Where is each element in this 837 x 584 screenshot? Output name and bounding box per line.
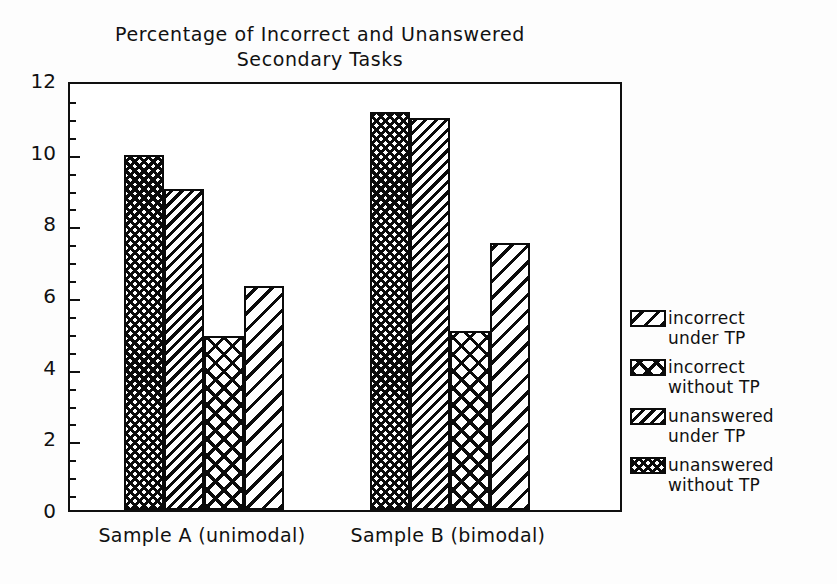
y-axis-minor-tick <box>69 209 76 211</box>
y-axis-minor-tick <box>69 496 76 498</box>
chart-figure: Percentage of Incorrect and Unanswered S… <box>0 0 837 584</box>
y-axis-minor-tick <box>69 460 76 462</box>
y-axis-minor-tick <box>69 335 76 337</box>
legend-item[interactable]: unanswered without TP <box>630 455 835 495</box>
y-axis-tick-label: 2 <box>10 429 56 449</box>
y-axis-major-tick <box>69 442 80 444</box>
bar <box>490 243 530 510</box>
y-axis-minor-tick <box>69 263 76 265</box>
bar <box>410 118 450 510</box>
legend-swatch-icon <box>630 457 666 474</box>
y-axis-minor-tick <box>69 478 76 480</box>
y-axis-tick-label: 10 <box>10 143 56 163</box>
y-axis-minor-tick <box>69 138 76 140</box>
bar <box>164 189 204 510</box>
y-axis-minor-tick <box>69 407 76 409</box>
y-axis-major-tick <box>69 156 80 158</box>
y-axis-tick-label: 0 <box>10 501 56 521</box>
bar <box>244 286 284 510</box>
y-axis-minor-tick <box>69 120 76 122</box>
y-axis-minor-tick <box>69 245 76 247</box>
y-axis-minor-tick <box>69 317 76 319</box>
y-axis-major-tick <box>69 299 80 301</box>
legend-label: unanswered without TP <box>668 455 774 495</box>
y-axis-minor-tick <box>69 424 76 426</box>
chart-title: Percentage of Incorrect and Unanswered S… <box>60 22 580 72</box>
bar <box>450 331 490 510</box>
legend-swatch-icon <box>630 310 666 327</box>
x-axis-group-label: Sample B (bimodal) <box>318 524 578 546</box>
bar <box>124 155 164 510</box>
legend-swatch-icon <box>630 408 666 425</box>
y-axis-major-tick <box>69 227 80 229</box>
y-axis-tick-label: 6 <box>10 286 56 306</box>
y-axis-tick-label: 12 <box>10 71 56 91</box>
plot-area <box>68 82 622 512</box>
bar <box>370 112 410 510</box>
legend-item[interactable]: incorrect under TP <box>630 308 835 348</box>
legend-label: incorrect under TP <box>668 308 745 348</box>
x-axis-group-label: Sample A (unimodal) <box>72 524 332 546</box>
y-axis-tick-label: 8 <box>10 214 56 234</box>
plot-inner <box>70 84 620 510</box>
chart-legend: incorrect under TPincorrect without TPun… <box>630 308 835 504</box>
y-axis-minor-tick <box>69 353 76 355</box>
legend-item[interactable]: incorrect without TP <box>630 357 835 397</box>
legend-swatch-icon <box>630 359 666 376</box>
y-axis-minor-tick <box>69 281 76 283</box>
legend-label: unanswered under TP <box>668 406 774 446</box>
y-axis-minor-tick <box>69 174 76 176</box>
y-axis-tick-label: 4 <box>10 358 56 378</box>
y-axis-minor-tick <box>69 192 76 194</box>
legend-label: incorrect without TP <box>668 357 760 397</box>
bar <box>204 336 244 510</box>
y-axis-major-tick <box>69 371 80 373</box>
y-axis-minor-tick <box>69 102 76 104</box>
legend-item[interactable]: unanswered under TP <box>630 406 835 446</box>
y-axis-minor-tick <box>69 389 76 391</box>
